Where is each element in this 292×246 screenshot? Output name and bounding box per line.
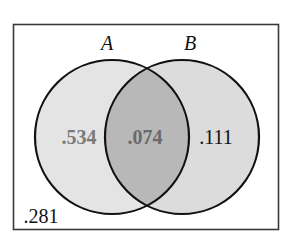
set-b-label: B	[184, 32, 196, 54]
neither-value: .281	[24, 205, 59, 227]
b-only-value: .111	[199, 126, 233, 148]
venn-diagram: A B .534 .074 .111 .281	[0, 0, 292, 246]
intersection-value: .074	[128, 126, 163, 148]
a-only-value: .534	[62, 126, 97, 148]
set-a-label: A	[99, 32, 114, 54]
